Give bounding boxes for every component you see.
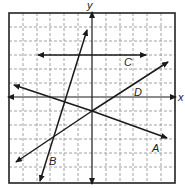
y-axis-label: y: [86, 0, 94, 11]
line-b-label: B: [49, 155, 56, 167]
line-a-label: A: [151, 142, 159, 154]
line-d-label: D: [134, 86, 142, 98]
line-c-label: C: [124, 56, 132, 68]
line-b: [40, 30, 87, 181]
x-axis-label: x: [177, 91, 184, 103]
coordinate-plane: y x C B D A: [0, 0, 185, 188]
